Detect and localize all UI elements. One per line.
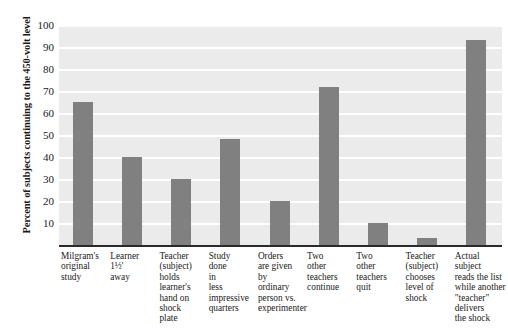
bar [73, 102, 93, 245]
category-label: Actual subject reads the list while anot… [455, 251, 508, 324]
bar [319, 87, 339, 245]
y-tick-label-80: 80 [26, 64, 54, 75]
bar [122, 157, 142, 245]
y-tick-label-100: 100 [26, 20, 54, 31]
bar [417, 238, 437, 245]
y-axis-tick-labels: 100908070605040302010 [26, 0, 54, 332]
category-label: Two other teachers quit [356, 251, 409, 293]
x-axis-category-labels: Milgram's original studyLearner 1½' away… [59, 251, 502, 332]
y-tick-label-40: 40 [26, 152, 54, 163]
category-label: Milgram's original study [61, 251, 114, 282]
x-axis-line [59, 245, 502, 247]
category-label: Learner 1½' away [110, 251, 163, 282]
category-label: Orders are given by ordinary person vs. … [258, 251, 311, 313]
bar [171, 179, 191, 245]
y-tick-label-70: 70 [26, 86, 54, 97]
category-label: Teacher (subject) chooses level of shock [406, 251, 459, 303]
bar [466, 40, 486, 245]
y-tick-label-30: 30 [26, 174, 54, 185]
category-label: Two other teachers continue [307, 251, 360, 293]
bar [368, 223, 388, 245]
y-tick-label-50: 50 [26, 130, 54, 141]
category-label: Teacher (subject) holds learner's hand o… [159, 251, 212, 324]
y-tick-label-90: 90 [26, 42, 54, 53]
bars-group [59, 25, 502, 245]
category-label: Study done in less impressive quarters [209, 251, 262, 313]
bar [220, 139, 240, 245]
y-tick-label-20: 20 [26, 196, 54, 207]
y-tick-label-60: 60 [26, 108, 54, 119]
bar [270, 201, 290, 245]
y-tick-label-10: 10 [26, 218, 54, 229]
plot-area [59, 25, 502, 245]
